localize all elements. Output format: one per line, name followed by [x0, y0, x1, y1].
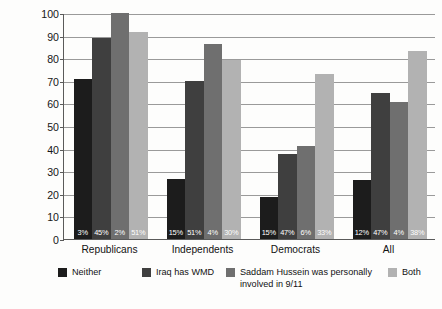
bar-value-label: 38%	[408, 228, 427, 237]
bar[interactable]: 45%	[92, 38, 111, 239]
legend-swatch	[226, 268, 235, 277]
legend-swatch	[58, 268, 67, 277]
bar-value-label: 51%	[185, 228, 204, 237]
bar-value-label: 15%	[260, 228, 279, 237]
bar[interactable]: 15%	[167, 179, 186, 239]
bar[interactable]: 47%	[278, 154, 297, 239]
legend-swatch	[388, 268, 397, 277]
bar[interactable]: 2%	[111, 13, 130, 239]
bar[interactable]: 38%	[408, 51, 427, 239]
x-axis-category-label: Independents	[156, 244, 249, 255]
x-axis-category-label: Republicans	[63, 244, 156, 255]
y-axis-tick-label: 60	[35, 98, 59, 110]
bar-value-label: 51%	[129, 228, 148, 237]
y-axis-tick-label: 40	[35, 144, 59, 156]
bar-group: 15%51%4%30%	[157, 14, 250, 239]
bar[interactable]: 6%	[297, 146, 316, 239]
bar-value-label: 4%	[390, 228, 409, 237]
bar[interactable]: 51%	[129, 32, 148, 239]
bar[interactable]: 12%	[353, 180, 372, 239]
y-axis-tick-label: 90	[35, 31, 59, 43]
bar-value-label: 4%	[204, 228, 223, 237]
bar-value-label: 2%	[111, 228, 130, 237]
bar-group: 12%47%4%38%	[343, 14, 436, 239]
y-axis-tick-label: 80	[35, 53, 59, 65]
chart-legend: NeitherIraq has WMDSaddam Hussein was pe…	[58, 267, 442, 303]
y-axis-tick-label: 50	[35, 121, 59, 133]
legend-item[interactable]: Iraq has WMD	[142, 267, 214, 279]
legend-label: Saddam Hussein was personally involved i…	[240, 267, 372, 290]
bar[interactable]: 33%	[315, 74, 334, 239]
bar-value-label: 47%	[371, 228, 390, 237]
legend-label: Iraq has WMD	[156, 267, 214, 279]
legend-item[interactable]: Neither	[58, 267, 101, 279]
bar[interactable]: 15%	[260, 197, 279, 239]
bar-value-label: 15%	[167, 228, 186, 237]
bar-value-label: 6%	[297, 228, 316, 237]
bar-group: 3%45%2%51%	[64, 14, 157, 239]
legend-label: Neither	[72, 267, 101, 279]
bar[interactable]: 51%	[185, 81, 204, 239]
y-axis-tick-label: 10	[35, 211, 59, 223]
y-axis-tick-label: 100	[35, 8, 59, 20]
bar[interactable]: 30%	[222, 60, 241, 239]
bar-value-label: 3%	[74, 228, 93, 237]
bar-group: 15%47%6%33%	[250, 14, 343, 239]
legend-item[interactable]: Both	[388, 267, 421, 279]
legend-swatch	[142, 268, 151, 277]
bar[interactable]: 4%	[204, 44, 223, 239]
legend-label: Both	[402, 267, 421, 279]
bar-value-label: 33%	[315, 228, 334, 237]
bar-value-label: 45%	[92, 228, 111, 237]
plot-area: 3%45%2%51%15%51%4%30%15%47%6%33%12%47%4%…	[63, 14, 435, 240]
bar-value-label: 12%	[353, 228, 372, 237]
y-axis-tick-labels: 0102030405060708090100	[31, 14, 59, 240]
bar[interactable]: 47%	[371, 93, 390, 239]
x-axis-category-label: Democrats	[249, 244, 342, 255]
bar[interactable]: 3%	[74, 79, 93, 239]
y-axis-tick-label: 20	[35, 189, 59, 201]
y-axis-tick	[60, 240, 64, 241]
bar-value-label: 30%	[222, 228, 241, 237]
bar-value-label: 47%	[278, 228, 297, 237]
legend-item[interactable]: Saddam Hussein was personally involved i…	[226, 267, 372, 290]
y-axis-tick-label: 30	[35, 166, 59, 178]
bar[interactable]: 4%	[390, 102, 409, 239]
y-axis-tick-label: 70	[35, 76, 59, 88]
y-axis-tick-label: 0	[35, 234, 59, 246]
chart-figure: Percent Approving Military Action to Rem…	[0, 0, 442, 309]
x-axis-category-label: All	[342, 244, 435, 255]
